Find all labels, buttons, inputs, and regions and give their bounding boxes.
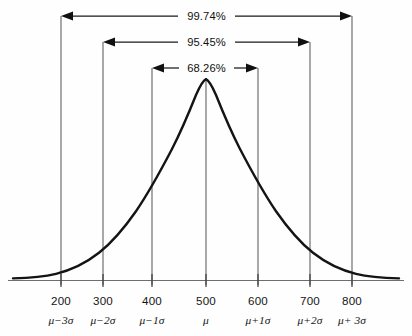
axis-value-400: 400	[142, 294, 162, 307]
band-68-26-right-arrowhead	[246, 64, 258, 73]
band-99-74-left-arrowhead	[61, 12, 73, 21]
axis-sigma-labels: μ−3σ μ−2σ μ−1σ μ μ+1σ μ+2σ μ+ 3σ	[47, 314, 366, 326]
axis-value-700: 700	[300, 294, 320, 307]
axis-sigma-mu-plus-1sigma: μ+1σ	[244, 314, 270, 326]
axis-sigma-mu: μ	[202, 314, 209, 326]
axis-sigma-mu-plus-3sigma: μ+ 3σ	[337, 314, 366, 326]
axis-sigma-mu-minus-3sigma: μ−3σ	[47, 314, 73, 326]
axis-sigma-mu-minus-1sigma: μ−1σ	[138, 314, 164, 326]
axis-value-500: 500	[196, 294, 216, 307]
axis-value-300: 300	[93, 294, 113, 307]
distribution-chart-canvas: 99.74% 95.45% 68.26% 200 300 400 500 600…	[0, 0, 412, 336]
band-95-45: 95.45%	[103, 36, 310, 48]
axis-value-800: 800	[342, 294, 362, 307]
band-95-45-left-arrowhead	[103, 38, 115, 47]
normal-distribution-figure: 99.74% 95.45% 68.26% 200 300 400 500 600…	[0, 0, 412, 336]
axis-sigma-mu-minus-2sigma: μ−2σ	[89, 314, 115, 326]
gridlines	[61, 16, 352, 285]
axis-value-600: 600	[248, 294, 268, 307]
band-99-74-label: 99.74%	[187, 10, 226, 22]
band-99-74: 99.74%	[61, 10, 352, 22]
axis-sigma-mu-plus-2sigma: μ+2σ	[296, 314, 322, 326]
band-68-26-left-arrowhead	[152, 64, 164, 73]
band-99-74-right-arrowhead	[340, 12, 352, 21]
band-68-26: 68.26%	[152, 62, 258, 74]
axis-value-labels: 200 300 400 500 600 700 800	[51, 294, 362, 307]
band-95-45-label: 95.45%	[187, 36, 226, 48]
band-95-45-right-arrowhead	[298, 38, 310, 47]
band-68-26-label: 68.26%	[187, 62, 226, 74]
axis-value-200: 200	[51, 294, 71, 307]
